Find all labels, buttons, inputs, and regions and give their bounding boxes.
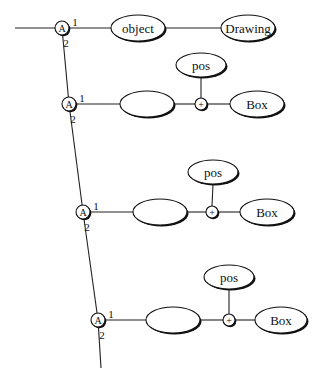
diagram-canvas: A12objectDrawingA12pos+BoxA12pos+BoxA12p… [0, 0, 325, 381]
node-pos-2[interactable]: pos [176, 53, 228, 79]
apply-node-1-label: A [58, 23, 66, 34]
port-1-label: 1 [72, 16, 78, 28]
node-object[interactable]: object [111, 15, 167, 43]
node-box-2-label: Box [246, 97, 268, 112]
apply-node-3[interactable]: A [76, 205, 91, 220]
node-box-3-label: Box [256, 205, 278, 220]
node-pos-4[interactable]: pos [204, 265, 256, 291]
apply-node-4-label: A [94, 315, 102, 326]
apply-node-1[interactable]: A [55, 21, 70, 36]
node-object-label: object [122, 21, 154, 36]
node-drawing-1-label: Drawing [225, 21, 271, 36]
plus-node-4-label: + [226, 315, 232, 326]
node-blank-4[interactable] [146, 307, 202, 335]
node-box-3[interactable]: Box [240, 199, 296, 227]
node-drawing-1[interactable]: Drawing [221, 15, 277, 43]
plus-node-3[interactable]: + [206, 206, 219, 219]
node-pos-3[interactable]: pos [188, 160, 240, 186]
plus-node-4[interactable]: + [223, 314, 236, 327]
node-blank-2[interactable] [120, 91, 176, 119]
node-blank-3-shape [133, 199, 187, 225]
node-box-4-label: Box [270, 313, 292, 328]
node-pos-3-label: pos [204, 165, 222, 180]
node-blank-4-shape [146, 307, 200, 333]
node-blank-3[interactable] [133, 199, 189, 227]
apply-node-3-label: A [79, 207, 87, 218]
diagram-svg: A12objectDrawingA12pos+BoxA12pos+BoxA12p… [0, 0, 325, 381]
node-pos-4-label: pos [220, 270, 238, 285]
apply-node-4[interactable]: A [91, 313, 106, 328]
port-2-label: 2 [99, 329, 105, 341]
port-2-label: 2 [70, 113, 76, 125]
plus-node-2[interactable]: + [195, 98, 208, 111]
port-1-label: 1 [93, 200, 99, 212]
apply-node-2-label: A [65, 99, 73, 110]
node-pos-2-label: pos [192, 58, 210, 73]
plus-node-3-label: + [209, 207, 215, 218]
port-2-label: 2 [84, 221, 90, 233]
node-box-4[interactable]: Box [255, 307, 309, 335]
node-blank-2-shape [120, 91, 174, 117]
edge-pos-to-plus [212, 184, 213, 206]
port-2-label: 2 [63, 37, 69, 49]
node-box-2[interactable]: Box [230, 91, 286, 119]
plus-node-2-label: + [198, 99, 204, 110]
port-1-label: 1 [79, 92, 85, 104]
apply-node-2[interactable]: A [62, 97, 77, 112]
port-1-label: 1 [108, 308, 114, 320]
